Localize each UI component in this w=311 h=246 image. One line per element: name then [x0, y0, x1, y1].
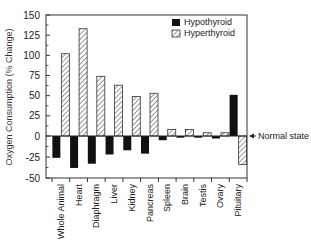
normal-state-label: Normal state — [258, 131, 309, 141]
y-tick-label: 75 — [29, 70, 41, 81]
y-tick-label: 125 — [23, 30, 40, 41]
bar-hyperthyroid — [132, 96, 140, 136]
bar-hyperthyroid — [185, 130, 193, 136]
bar-hypothyroid — [106, 136, 114, 154]
bar-hyperthyroid — [97, 76, 105, 136]
y-tick-label: -50 — [26, 173, 41, 184]
bar-hyperthyroid — [115, 85, 123, 136]
x-category-label: Pituitary — [233, 184, 243, 217]
legend-swatch-hypothyroid — [172, 19, 180, 26]
bar-hypothyroid — [159, 136, 167, 140]
arrowhead-icon — [249, 134, 254, 139]
y-tick-label: -25 — [26, 152, 41, 163]
x-category-label: Pancreas — [145, 184, 155, 223]
x-category-label: Spleen — [162, 184, 172, 212]
bar-hyperthyroid — [239, 136, 247, 165]
x-category-label: Heart — [74, 184, 84, 207]
x-category-label: Liver — [109, 184, 119, 204]
y-tick-label: 0 — [34, 131, 40, 142]
y-tick-label: 150 — [23, 10, 40, 21]
legend: Hypothyroid Hyperthyroid — [172, 17, 235, 38]
bar-hyperthyroid — [61, 54, 69, 136]
bar-hypothyroid — [123, 136, 131, 150]
legend-label-hyperthyroid: Hyperthyroid — [184, 28, 235, 38]
x-category-label: Brain — [180, 184, 190, 205]
legend-label-hypothyroid: Hypothyroid — [184, 17, 232, 27]
x-category-label: Testis — [198, 184, 208, 208]
bar-hypothyroid — [52, 136, 60, 158]
bars — [52, 29, 246, 168]
bar-hypothyroid — [88, 136, 96, 164]
bar-hypothyroid — [70, 136, 78, 168]
bar-chart: 1501251007550250-25-50 Whole AnimalHeart… — [0, 0, 311, 246]
legend-swatch-hyperthyroid — [172, 30, 180, 37]
x-axis-ticks: Whole AnimalHeartDiaphragmLiverKidneyPan… — [52, 178, 247, 239]
x-category-label: Kidney — [127, 184, 137, 212]
bar-hyperthyroid — [150, 93, 158, 136]
bar-hyperthyroid — [168, 130, 176, 136]
x-category-label: Ovary — [215, 184, 225, 209]
y-tick-label: 50 — [29, 90, 41, 101]
y-tick-label: 25 — [29, 110, 41, 121]
bar-hyperthyroid — [79, 29, 87, 136]
bar-hypothyroid — [141, 136, 149, 154]
x-category-label: Diaphragm — [91, 184, 101, 228]
x-category-label: Whole Animal — [56, 184, 66, 239]
y-tick-label: 100 — [23, 50, 40, 61]
y-axis-title: Oxygen Consumption (% Change) — [4, 28, 14, 165]
bar-hypothyroid — [230, 95, 238, 136]
normal-state-annotation: Normal state — [249, 131, 309, 141]
